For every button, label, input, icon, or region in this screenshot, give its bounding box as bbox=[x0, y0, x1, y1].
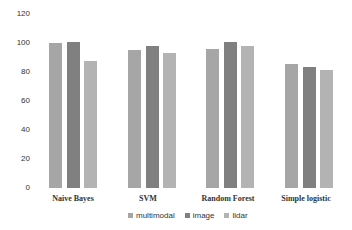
bar-chart: 0 20 40 60 80 100 120 Naive Bayes SVM Ra… bbox=[0, 0, 352, 230]
y-tick-40: 40 bbox=[0, 125, 30, 134]
y-tick-60: 60 bbox=[0, 96, 30, 105]
legend-item-image: image bbox=[185, 211, 215, 220]
y-tick-80: 80 bbox=[0, 67, 30, 76]
bar-naive-bayes-image bbox=[67, 42, 80, 188]
legend-swatch-multimodal bbox=[128, 213, 133, 218]
legend-swatch-image bbox=[185, 213, 190, 218]
bar-simple-logistic-image bbox=[303, 67, 316, 188]
bar-simple-logistic-multimodal bbox=[285, 64, 298, 188]
y-tick-0: 0 bbox=[0, 183, 30, 192]
bar-naive-bayes-multimodal bbox=[49, 43, 62, 188]
y-tick-20: 20 bbox=[0, 154, 30, 163]
bar-random-forest-image bbox=[224, 42, 237, 188]
y-tick-120: 120 bbox=[0, 9, 30, 18]
legend-item-multimodal: multimodal bbox=[128, 211, 175, 220]
bar-svm-image bbox=[146, 46, 159, 188]
legend-item-lidar: lidar bbox=[224, 211, 247, 220]
bar-svm-multimodal bbox=[128, 50, 141, 188]
bar-svm-lidar bbox=[163, 53, 176, 188]
legend-label-multimodal: multimodal bbox=[136, 211, 175, 220]
legend: multimodal image lidar bbox=[128, 211, 248, 220]
legend-swatch-lidar bbox=[224, 213, 229, 218]
y-tick-100: 100 bbox=[0, 38, 30, 47]
bar-random-forest-lidar bbox=[241, 46, 254, 188]
bar-random-forest-multimodal bbox=[206, 49, 219, 188]
legend-label-lidar: lidar bbox=[232, 211, 247, 220]
category-label-svm: SVM bbox=[103, 194, 193, 203]
legend-label-image: image bbox=[193, 211, 215, 220]
category-label-random-forest: Random Forest bbox=[183, 194, 273, 203]
category-label-simple-logistic: Simple logistic bbox=[261, 194, 351, 203]
bar-simple-logistic-lidar bbox=[320, 70, 333, 188]
bar-naive-bayes-lidar bbox=[84, 61, 97, 188]
